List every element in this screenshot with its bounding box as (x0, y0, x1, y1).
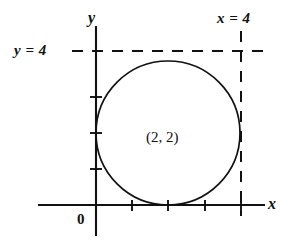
x-axis-label: x (268, 196, 276, 212)
circle-center-label: (2, 2) (146, 130, 179, 145)
coordinate-plane-figure: y x 0 y = 4 x = 4 (2, 2) (0, 0, 287, 242)
graph-canvas (0, 0, 287, 242)
y-axis-label: y (88, 10, 95, 26)
origin-label: 0 (77, 212, 85, 227)
vertical-line-label: x = 4 (217, 11, 251, 26)
horizontal-line-label: y = 4 (14, 43, 47, 58)
